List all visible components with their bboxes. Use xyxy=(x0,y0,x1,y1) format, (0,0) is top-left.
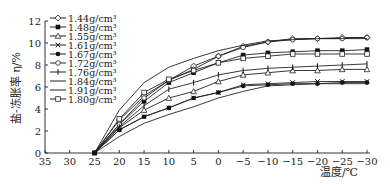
y-tick-label: 0 xyxy=(35,148,41,159)
legend: 1.44g/cm³1.48g/cm³1.55g/cm³1.61g/cm³1.67… xyxy=(50,13,117,105)
y-tick-label: 4 xyxy=(35,104,41,115)
series-line xyxy=(95,84,368,153)
series-line xyxy=(95,52,370,153)
x-tick-label: −5 xyxy=(236,156,251,167)
x-tick-label: −30 xyxy=(356,156,377,167)
y-tick-label: 2 xyxy=(35,126,41,137)
series-lines xyxy=(92,35,370,156)
y-tick-label: 12 xyxy=(28,16,41,27)
x-tick-label: 10 xyxy=(162,156,175,167)
series-line xyxy=(95,35,371,154)
y-tick-label: 6 xyxy=(35,82,41,93)
x-tick-label: 0 xyxy=(215,156,221,167)
y-tick-label: 8 xyxy=(35,60,41,71)
y-tick-label: 10 xyxy=(28,38,41,49)
y-axis-label: 盐-冻胀率 η/% xyxy=(9,52,23,124)
series-line xyxy=(95,80,370,153)
series-line xyxy=(95,39,368,153)
x-tick-label: 5 xyxy=(190,156,196,167)
x-tick-label: 20 xyxy=(113,156,126,167)
x-tick-label: 30 xyxy=(63,156,76,167)
legend-label: 1.80g/cm³ xyxy=(68,94,117,105)
x-axis-label: 温度/℃ xyxy=(320,165,358,179)
x-tick-label: −15 xyxy=(282,156,303,167)
series-line xyxy=(95,47,370,153)
legend-item: 1.80g/cm³ xyxy=(50,94,117,105)
x-tick-label: 25 xyxy=(88,156,101,167)
salt-frost-heave-chart: 35302520151050−5−10−15−20−25−30024681012… xyxy=(0,0,390,185)
series-line xyxy=(95,67,370,153)
x-tick-label: 15 xyxy=(138,156,151,167)
x-tick-label: −10 xyxy=(257,156,278,167)
